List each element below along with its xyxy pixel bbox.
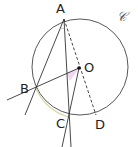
line-AB [25, 19, 64, 115]
center-point-O [77, 66, 81, 70]
geometry-figure: A O B C D 𝒞 [0, 0, 138, 147]
label-B: B [20, 81, 29, 96]
label-C: C [56, 116, 65, 131]
label-D: D [95, 117, 105, 132]
angle-mark-A [61, 28, 65, 29]
label-circle-name: 𝒞 [117, 9, 130, 24]
label-A: A [56, 1, 65, 16]
label-O: O [84, 60, 94, 75]
